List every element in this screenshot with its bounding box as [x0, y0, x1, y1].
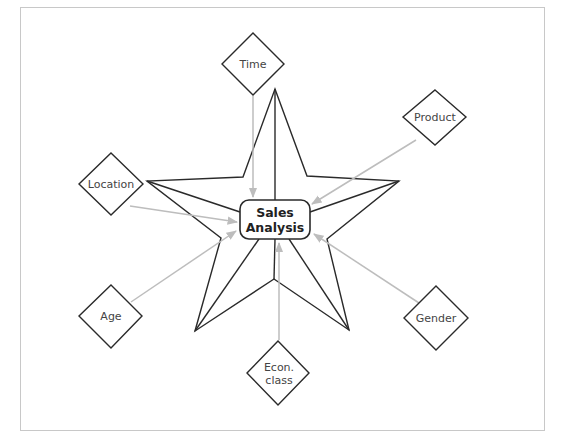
dimension-label: Product	[414, 111, 456, 124]
dimension-node-location[interactable]: Location	[79, 153, 143, 215]
dimension-label: Age	[100, 310, 122, 323]
dimension-node-time[interactable]: Time	[222, 33, 284, 95]
dimension-label: Time	[239, 58, 267, 71]
dimension-node-gender[interactable]: Gender	[404, 286, 468, 350]
arrow-gender	[314, 234, 419, 303]
dimension-label: Location	[88, 178, 135, 191]
fact-label-line2: Analysis	[246, 220, 305, 235]
dimension-node-product[interactable]: Product	[403, 90, 466, 145]
dimension-label-line1: Econ.	[264, 361, 294, 374]
dimension-node-econ-class[interactable]: Econ. class	[247, 341, 309, 405]
fact-label-line1: Sales	[256, 205, 294, 220]
dimension-label: Gender	[416, 312, 457, 325]
arrow-age	[131, 231, 236, 302]
star-schema-diagram: Sales Analysis Time Product Location Age…	[0, 0, 563, 440]
arrow-product	[312, 140, 416, 204]
fact-node-sales-analysis[interactable]: Sales Analysis	[240, 200, 310, 239]
dimension-label-line2: class	[265, 374, 293, 387]
dimension-node-age[interactable]: Age	[79, 285, 142, 348]
